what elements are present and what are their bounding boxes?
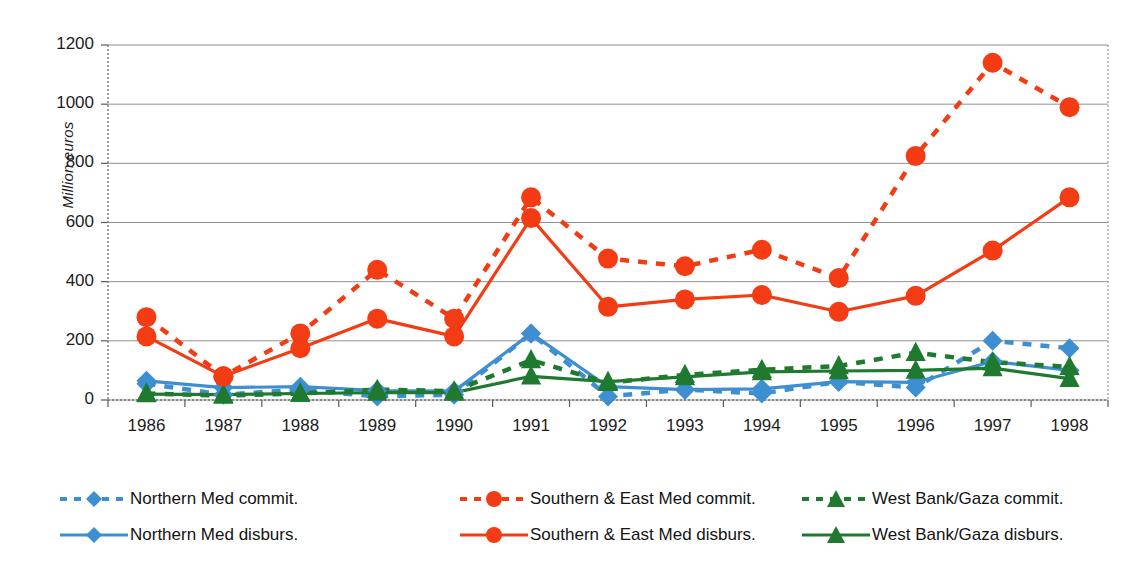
x-axis-tick-label: 1997 xyxy=(954,416,1031,436)
legend-swatch-diamond-icon xyxy=(58,522,130,548)
data-point-southern-east-med-disburs xyxy=(444,326,464,346)
data-point-southern-east-med-commit xyxy=(1060,97,1080,117)
x-axis-tick-label: 1994 xyxy=(723,416,800,436)
series-line-southern-east-med-disburs xyxy=(147,197,1070,376)
data-point-southern-east-med-disburs xyxy=(675,289,695,309)
x-axis-tick-label: 1990 xyxy=(416,416,493,436)
x-axis-tick-label: 1998 xyxy=(1031,416,1108,436)
x-axis-tick-label: 1992 xyxy=(570,416,647,436)
legend-label: Southern & East Med commit. xyxy=(530,489,756,509)
data-point-southern-east-med-commit xyxy=(136,307,156,327)
data-point-southern-east-med-commit xyxy=(444,309,464,329)
x-axis-tick-label: 1993 xyxy=(646,416,723,436)
chart-legend: Northern Med commit.Southern & East Med … xyxy=(58,482,1108,554)
y-axis-tick-label: 400 xyxy=(0,271,94,291)
data-point-northern-med-commit xyxy=(983,331,1003,351)
y-axis-tick-label: 1000 xyxy=(0,93,94,113)
y-axis-tick-label: 200 xyxy=(0,330,94,350)
chart-plot-area xyxy=(0,0,1122,562)
legend-label: Southern & East Med disburs. xyxy=(530,525,756,545)
legend-item-southern-east-med-commit[interactable]: Southern & East Med commit. xyxy=(458,482,756,516)
legend-item-northern-med-commit[interactable]: Northern Med commit. xyxy=(58,482,298,516)
x-axis-tick-label: 1988 xyxy=(262,416,339,436)
y-axis-tick-label: 800 xyxy=(0,152,94,172)
data-point-southern-east-med-disburs xyxy=(136,326,156,346)
series-line-southern-east-med-commit xyxy=(147,63,1070,377)
y-axis-tick-label: 600 xyxy=(0,212,94,232)
x-axis-tick-label: 1995 xyxy=(800,416,877,436)
data-point-southern-east-med-disburs xyxy=(598,297,618,317)
y-axis-tick-label: 1200 xyxy=(0,34,94,54)
legend-item-west-bank-gaza-commit[interactable]: West Bank/Gaza commit. xyxy=(800,482,1063,516)
legend-label: West Bank/Gaza disburs. xyxy=(872,525,1064,545)
data-point-southern-east-med-disburs xyxy=(752,285,772,305)
legend-swatch-diamond-icon xyxy=(58,486,130,512)
legend-swatch-circle-icon xyxy=(458,486,530,512)
data-point-southern-east-med-disburs xyxy=(290,338,310,358)
legend-label: Northern Med disburs. xyxy=(130,525,298,545)
data-point-southern-east-med-disburs xyxy=(521,208,541,228)
data-point-southern-east-med-disburs xyxy=(829,302,849,322)
data-point-southern-east-med-disburs xyxy=(213,366,233,386)
legend-swatch-triangle-icon xyxy=(800,486,872,512)
data-point-southern-east-med-commit xyxy=(983,53,1003,73)
data-point-southern-east-med-disburs xyxy=(906,286,926,306)
x-axis-tick-label: 1987 xyxy=(185,416,262,436)
data-point-southern-east-med-commit xyxy=(598,249,618,269)
data-point-southern-east-med-commit xyxy=(752,240,772,260)
data-point-southern-east-med-commit xyxy=(906,146,926,166)
data-point-southern-east-med-disburs xyxy=(367,309,387,329)
data-point-southern-east-med-disburs xyxy=(983,241,1003,261)
x-axis-tick-label: 1986 xyxy=(108,416,185,436)
legend-item-west-bank-gaza-disburs[interactable]: West Bank/Gaza disburs. xyxy=(800,518,1064,552)
x-axis-tick-label: 1996 xyxy=(877,416,954,436)
legend-item-northern-med-disburs[interactable]: Northern Med disburs. xyxy=(58,518,298,552)
data-point-southern-east-med-commit xyxy=(675,256,695,276)
data-point-southern-east-med-disburs xyxy=(1060,187,1080,207)
chart-figure: Million euros 020040060080010001200 1986… xyxy=(0,0,1122,562)
legend-swatch-circle-icon xyxy=(458,522,530,548)
data-point-southern-east-med-commit xyxy=(521,187,541,207)
legend-label: West Bank/Gaza commit. xyxy=(872,489,1063,509)
data-point-southern-east-med-commit xyxy=(367,260,387,280)
y-axis-tick-label: 0 xyxy=(0,389,94,409)
legend-label: Northern Med commit. xyxy=(130,489,298,509)
legend-swatch-triangle-icon xyxy=(800,522,872,548)
data-point-southern-east-med-commit xyxy=(829,268,849,288)
data-point-west-bank-gaza-commit xyxy=(906,342,926,361)
x-axis-tick-label: 1991 xyxy=(493,416,570,436)
legend-item-southern-east-med-disburs[interactable]: Southern & East Med disburs. xyxy=(458,518,756,552)
x-axis-tick-label: 1989 xyxy=(339,416,416,436)
